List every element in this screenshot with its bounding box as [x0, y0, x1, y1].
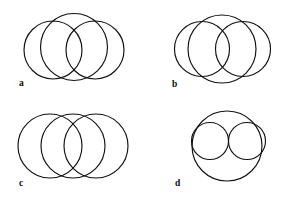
panel-label-b: b — [172, 79, 177, 89]
panel-label-c: c — [19, 178, 23, 188]
panel-label-d: d — [175, 178, 181, 188]
panel-label-a: a — [19, 78, 24, 88]
figure-canvas: abcd — [0, 0, 288, 197]
figure-background — [0, 0, 288, 197]
circle-arrangement-figure: abcd — [0, 0, 288, 197]
